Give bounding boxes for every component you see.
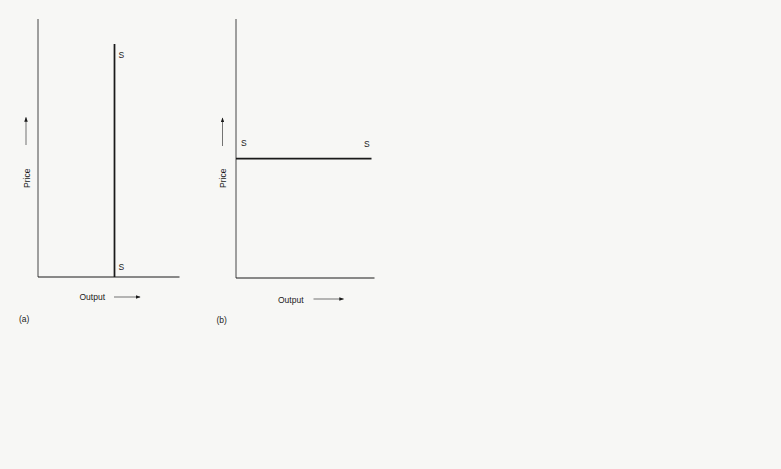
supply-curves-figure: S S Price Output (a) S S Price Output (b…: [0, 0, 781, 469]
panel-a-x-axis-label: Output: [80, 292, 106, 302]
panel-b-y-axis-label: Price: [218, 168, 228, 188]
panel-a: S S Price Output (a): [19, 19, 180, 324]
panel-a-y-axis-label: Price: [22, 168, 32, 188]
panel-b-x-axis-label: Output: [278, 295, 304, 305]
panel-b-curve-label-right: S: [364, 139, 370, 149]
panel-b-curve-label-left: S: [241, 138, 247, 148]
panel-b-caption: (b): [217, 315, 228, 325]
panel-b: S S Price Output (b): [217, 19, 375, 325]
panel-a-caption: (a): [19, 314, 30, 324]
panel-a-curve-label-bottom: S: [119, 262, 125, 272]
panel-a-curve-label-top: S: [119, 50, 125, 60]
